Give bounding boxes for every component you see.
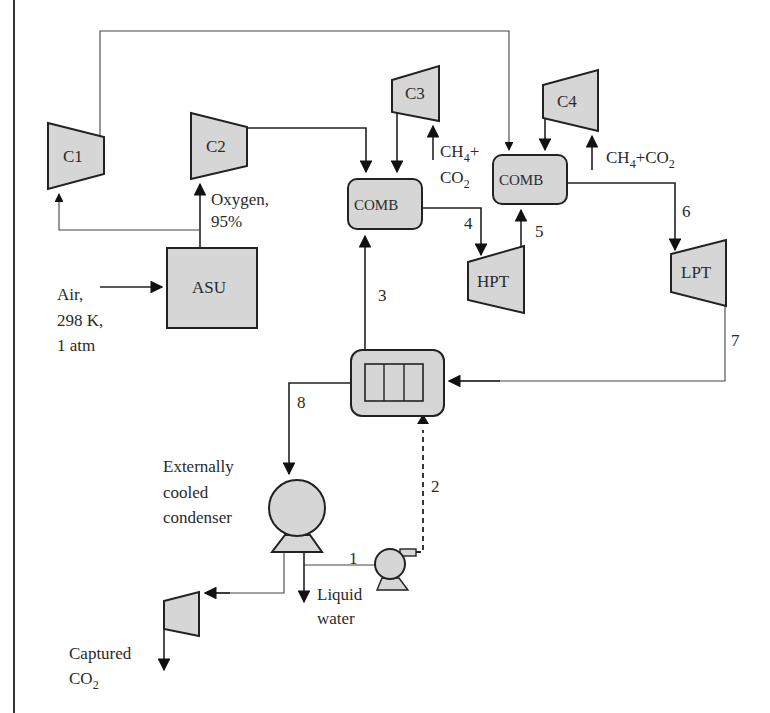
pump bbox=[375, 549, 416, 590]
comb2-label: COMB bbox=[499, 172, 543, 188]
stream-6 bbox=[567, 183, 675, 250]
oxygen-label-1: Oxygen, bbox=[211, 190, 269, 209]
stream-label-7: 7 bbox=[731, 331, 740, 350]
process-flow-diagram: C1 C2 C3 C4 ASU COMB COMB HPT LPT Oxygen… bbox=[0, 0, 770, 713]
stream-c2-to-comb1 bbox=[247, 128, 366, 172]
stream-c1-to-comb2 bbox=[100, 31, 509, 150]
asu-label: ASU bbox=[192, 278, 226, 297]
c1-label: C1 bbox=[63, 147, 83, 166]
air-label-1: Air, bbox=[57, 285, 83, 304]
condenser bbox=[269, 480, 325, 552]
captured-label-1: Captured bbox=[69, 644, 132, 663]
c2-label: C2 bbox=[206, 137, 226, 156]
lpt-label: LPT bbox=[681, 263, 712, 282]
stream-label-1: 1 bbox=[349, 549, 358, 568]
oxygen-label-2: 95% bbox=[211, 212, 242, 231]
stream-label-8: 8 bbox=[297, 393, 306, 412]
air-label-2: 298 K, bbox=[57, 311, 103, 330]
hpt-label: HPT bbox=[477, 272, 510, 291]
condenser-label-1: Externally bbox=[163, 457, 234, 476]
captured-label-2: CO2 bbox=[69, 669, 99, 692]
stream-2 bbox=[416, 430, 423, 552]
stream-oxygen-to-c1 bbox=[59, 194, 200, 230]
fuel1-label-2: CO2 bbox=[440, 168, 470, 191]
stream-label-2: 2 bbox=[431, 477, 440, 496]
fuel1-label-1: CH4+ bbox=[440, 142, 479, 165]
stream-7 bbox=[450, 306, 725, 381]
stream-label-4: 4 bbox=[464, 214, 473, 233]
stream-label-3: 3 bbox=[378, 286, 387, 305]
fuel2-label: CH4+CO2 bbox=[606, 148, 675, 171]
air-label-3: 1 atm bbox=[57, 336, 95, 355]
compressor-co2 bbox=[164, 592, 199, 636]
c3-label: C3 bbox=[405, 84, 425, 103]
liquid-label-2: water bbox=[317, 609, 355, 628]
condenser-label-2: cooled bbox=[163, 483, 209, 502]
heat-exchanger bbox=[351, 350, 444, 416]
stream-label-5: 5 bbox=[535, 222, 544, 241]
stream-co2-to-compressor bbox=[210, 552, 284, 593]
c4-label: C4 bbox=[557, 92, 577, 111]
stream-label-6: 6 bbox=[682, 202, 691, 221]
condenser-label-3: condenser bbox=[163, 508, 232, 527]
liquid-label-1: Liquid bbox=[317, 585, 363, 604]
comb1-label: COMB bbox=[354, 197, 398, 213]
